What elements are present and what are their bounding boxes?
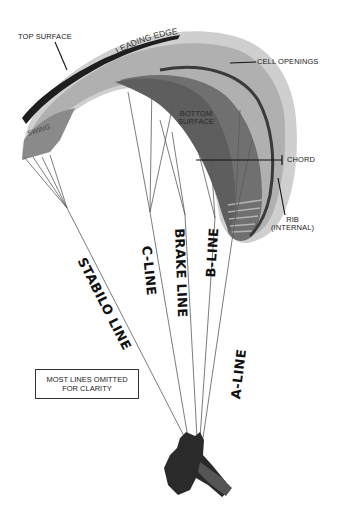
cell-openings-label: CELL OPENINGS — [257, 58, 318, 66]
bottom-surface-label: BOTTOM SURFACE — [178, 110, 214, 127]
c-line-upper-1 — [128, 92, 150, 212]
brake-line-label: BRAKE LINE — [172, 228, 190, 318]
stabilo-line-upper-2 — [33, 157, 67, 208]
rib-label: RIB (INTERNAL) — [271, 216, 314, 233]
stabilo-line-main — [67, 208, 185, 438]
canopy: LEADING EDGE SWING — [22, 26, 297, 243]
note-line1: MOST LINES OMITTED — [46, 375, 127, 384]
note-line2: FOR CLARITY — [62, 384, 112, 393]
note-box: MOST LINES OMITTED FOR CLARITY — [35, 369, 139, 399]
bottom-surface-line2: SURFACE — [178, 118, 214, 126]
chord-label: CHORD — [287, 156, 315, 164]
top-surface-label: TOP SURFACE — [18, 33, 72, 41]
c-line-upper-3 — [150, 95, 175, 212]
rib-line2: (INTERNAL) — [271, 224, 314, 232]
pilot — [164, 432, 232, 497]
top-surface-leader — [55, 42, 67, 70]
paraglider-diagram: LEADING EDGE SWING — [0, 0, 339, 523]
c-line-upper-2 — [150, 82, 152, 212]
stabilo-line-upper-4 — [50, 155, 67, 208]
